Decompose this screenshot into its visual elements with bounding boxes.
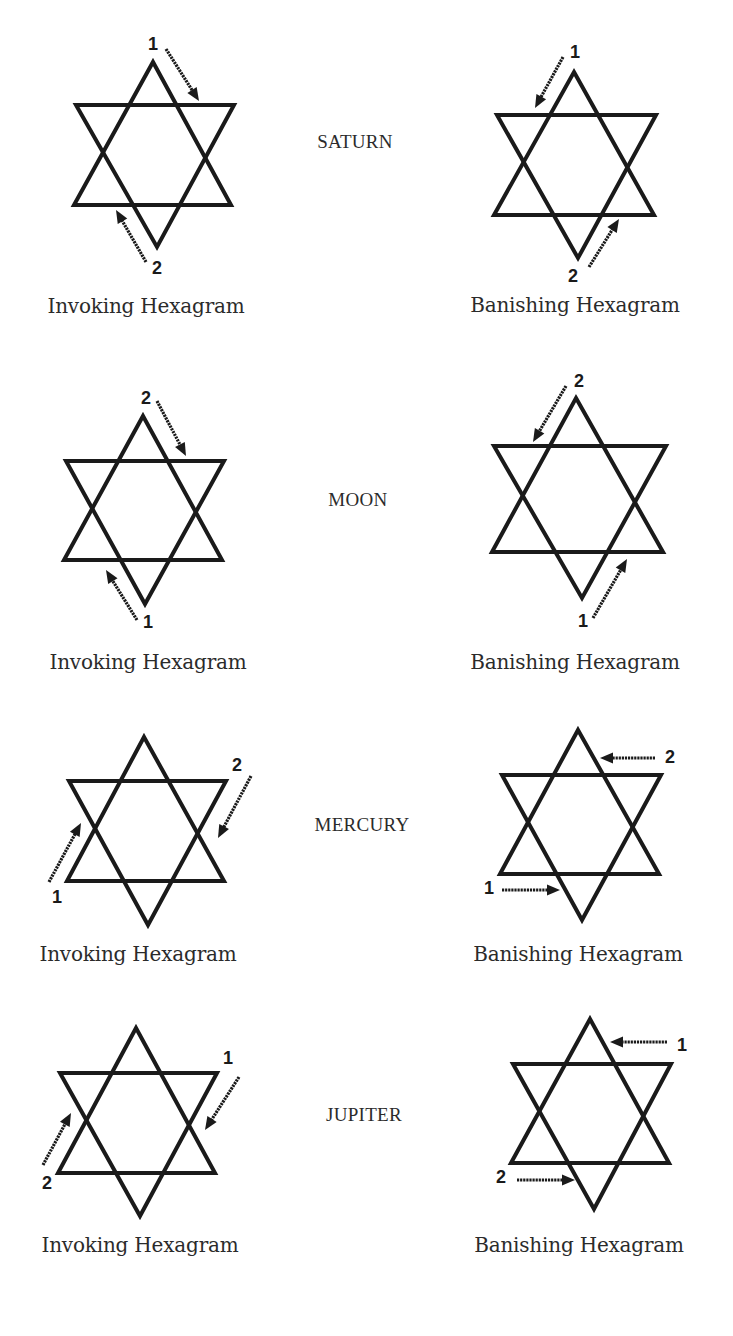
step-number: 1	[484, 878, 494, 898]
upward-triangle	[58, 1028, 215, 1173]
planet-label-jupiter: JUPITER	[326, 1104, 402, 1126]
caption-mercury-invoking: Invoking Hexagram	[39, 942, 236, 966]
upward-triangle	[67, 737, 224, 881]
downward-triangle	[502, 775, 661, 920]
downward-triangle	[76, 105, 234, 247]
step-2-marker: 2	[600, 747, 675, 767]
step-number: 2	[42, 1173, 52, 1193]
arrow-head-icon	[547, 885, 560, 896]
step-number: 2	[568, 266, 578, 286]
downward-triangle	[60, 1073, 217, 1216]
step-number: 1	[148, 34, 158, 54]
downward-triangle	[513, 1064, 671, 1209]
downward-triangle	[497, 115, 656, 258]
caption-jupiter-banishing: Banishing Hexagram	[474, 1233, 684, 1257]
planet-label-moon: MOON	[328, 489, 387, 511]
step-1-marker: 1	[484, 878, 560, 898]
caption-moon-banishing: Banishing Hexagram	[470, 650, 680, 674]
hexagram-jupiter-invoking: 12	[42, 1028, 239, 1216]
caption-saturn-invoking: Invoking Hexagram	[47, 294, 244, 318]
hexagram-jupiter-banishing: 12	[496, 1019, 687, 1209]
step-number: 1	[578, 611, 588, 631]
arrow-shaft	[43, 1124, 65, 1165]
arrow-shaft	[157, 401, 180, 445]
downward-triangle	[66, 461, 224, 604]
upward-triangle	[74, 62, 231, 205]
arrow-shaft	[541, 57, 563, 97]
planet-label-saturn: SATURN	[317, 131, 393, 153]
arrow-head-icon	[106, 570, 118, 584]
hexagram-saturn-invoking: 12	[74, 34, 234, 278]
arrow-head-icon	[616, 559, 627, 573]
arrow-head-icon	[562, 1175, 575, 1186]
arrow-shaft	[211, 1077, 239, 1120]
arrow-head-icon	[175, 442, 186, 456]
hexagram-moon-banishing: 21	[492, 371, 666, 631]
arrow-shaft	[122, 220, 146, 262]
step-number: 2	[574, 371, 584, 391]
downward-triangle	[69, 781, 226, 925]
caption-moon-invoking: Invoking Hexagram	[49, 650, 246, 674]
arrow-head-icon	[60, 1113, 71, 1127]
caption-saturn-banishing: Banishing Hexagram	[470, 293, 680, 317]
hexagram-saturn-banishing: 12	[494, 42, 656, 286]
step-number: 2	[232, 755, 242, 775]
step-number: 2	[152, 258, 162, 278]
arrow-head-icon	[533, 428, 544, 442]
upward-triangle	[492, 398, 663, 552]
step-1-marker: 1	[610, 1035, 687, 1055]
hexagram-mercury-banishing: 21	[484, 730, 675, 920]
upward-triangle	[494, 72, 654, 215]
arrow-shaft	[224, 776, 251, 827]
caption-jupiter-invoking: Invoking Hexagram	[41, 1233, 238, 1257]
step-2-marker: 2	[218, 755, 251, 838]
planet-label-mercury: MERCURY	[314, 814, 409, 836]
upward-triangle	[64, 416, 222, 560]
arrow-head-icon	[610, 1037, 623, 1048]
step-number: 2	[496, 1167, 506, 1187]
arrow-head-icon	[600, 753, 613, 764]
downward-triangle	[494, 446, 666, 598]
arrow-shaft	[593, 569, 621, 618]
step-number: 1	[52, 887, 62, 907]
step-number: 1	[570, 42, 580, 62]
hexagram-moon-invoking: 21	[64, 388, 224, 632]
step-2-marker: 2	[496, 1167, 575, 1187]
step-number: 1	[677, 1035, 687, 1055]
upward-triangle	[500, 730, 659, 874]
step-number: 1	[143, 612, 153, 632]
caption-mercury-banishing: Banishing Hexagram	[473, 942, 683, 966]
hexagram-mercury-invoking: 12	[49, 737, 251, 925]
step-number: 2	[665, 747, 675, 767]
arrow-shaft	[166, 49, 193, 91]
step-number: 1	[223, 1048, 233, 1068]
step-number: 2	[141, 388, 151, 408]
